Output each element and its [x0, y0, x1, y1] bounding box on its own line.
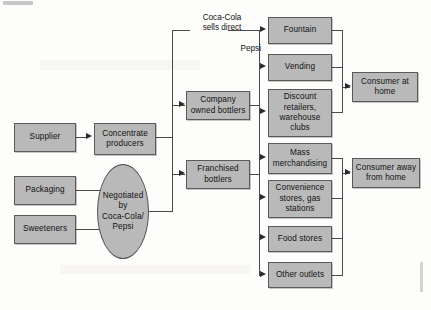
node-negotiated-by-coca-cola-pepsi[interactable]: Negotiated by Coca-Cola/ Pepsi [97, 164, 149, 259]
node-food-stores[interactable]: Food stores [268, 226, 332, 252]
arrowhead-fountain [260, 26, 266, 32]
arrowhead-concentrate [86, 133, 92, 139]
scan-blot [40, 60, 200, 70]
edge-concentrate-out [156, 137, 173, 138]
edge-label-pepsi: Pepsi [235, 44, 261, 54]
scan-artifact-side [420, 262, 423, 292]
node-consumer-away-from-home[interactable]: Consumer away from home [352, 158, 420, 188]
edge-discount-out [332, 112, 343, 113]
arrowhead-mass [260, 154, 266, 160]
edge-label-coca-cola-sells-direct: Coca-Cola sells direct [186, 13, 258, 33]
node-packaging[interactable]: Packaging [14, 176, 76, 205]
node-discount-retailers-warehouse-clubs[interactable]: Discount retailers, warehouse clubs [268, 89, 332, 137]
consumer-away-trunk [342, 158, 343, 275]
arrowhead-other [260, 271, 266, 277]
arrowhead-food-stores [260, 234, 266, 240]
arrowhead-discount [260, 108, 266, 114]
edge-packaging-to-negotiated [76, 190, 100, 191]
node-fountain[interactable]: Fountain [268, 17, 332, 44]
consumer-at-home-trunk [342, 30, 343, 112]
edge-sweeteners-to-negotiated [76, 229, 100, 230]
node-concentrate-producers[interactable]: Concentrate producers [94, 123, 156, 155]
scan-artifact-top [3, 1, 33, 5]
arrowhead-consumer-at-home [345, 83, 351, 89]
node-convenience-stores-gas-stations[interactable]: Convenience stores, gas stations [268, 180, 332, 218]
node-franchised-bottlers[interactable]: Franchised bottlers [186, 160, 250, 189]
node-sweeteners[interactable]: Sweeteners [14, 215, 76, 244]
node-company-owned-bottlers[interactable]: Company owned bottlers [186, 91, 250, 120]
node-vending[interactable]: Vending [268, 54, 332, 81]
edge-negotiated-out [148, 211, 173, 212]
edge-other-out [332, 275, 343, 276]
arrowhead-consumer-away [345, 169, 351, 175]
arrowhead-franchised-bottlers [179, 170, 185, 176]
arrowhead-company-bottlers [179, 101, 185, 107]
node-mass-merchandising[interactable]: Mass merchandising [268, 143, 332, 174]
node-consumer-at-home[interactable]: Consumer at home [352, 72, 418, 102]
diagram-canvas: Coca-Cola sells direct Pepsi Supplier Pa… [0, 0, 431, 310]
arrowhead-vending [260, 63, 266, 69]
node-other-outlets[interactable]: Other outlets [268, 262, 332, 288]
scan-blot [60, 265, 250, 274]
node-supplier[interactable]: Supplier [14, 123, 76, 152]
arrowhead-convenience [260, 194, 266, 200]
edge-trunk-up-to-direct [172, 30, 173, 138]
